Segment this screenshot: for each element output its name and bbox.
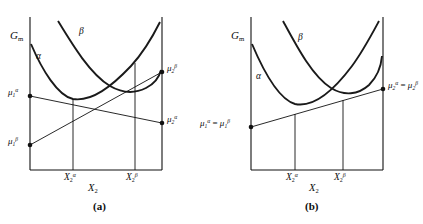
panel-b-beta-curve-label: β <box>298 32 303 42</box>
panel-b-caption: (b) <box>305 200 318 212</box>
panel-a-tick-x2-alpha: X2α <box>64 172 76 183</box>
panel-a-x-axis-label: X2 <box>88 182 98 194</box>
panel-b-graphics <box>249 17 386 170</box>
panel-b-mu2-equality-label: μ2α = μ2β <box>388 80 418 91</box>
panel-a-mu2-alpha-label: μ2α <box>167 114 177 125</box>
panel-a-caption: (a) <box>93 200 106 212</box>
panel-a-tangent-beta <box>30 72 162 145</box>
panel-b-mu1-equality-label: μ1α = μ1β <box>200 118 230 129</box>
panel-b-tick-x2-beta: X2β <box>334 172 346 183</box>
figure-container: Gm α β μ1α μ1β μ2β μ2α X2α X2β X2 (a) Gm… <box>0 0 423 224</box>
panel-b-alpha-curve-label: α <box>256 71 261 81</box>
panel-a-mu2-beta-point <box>160 70 165 75</box>
panel-a-y-axis-label: Gm <box>10 29 23 42</box>
panel-b-x-axis-label: X2 <box>309 182 319 194</box>
panel-a-tick-x2-beta: X2β <box>126 172 138 183</box>
panel-a-beta-curve-label: β <box>79 26 84 36</box>
panel-a-mu1-beta-point <box>28 143 33 148</box>
panel-a-mu2-alpha-point <box>160 121 165 126</box>
panel-b-mu1-point <box>249 125 254 130</box>
diagram-svg <box>0 0 423 224</box>
panel-a-tangent-alpha <box>30 96 162 123</box>
panel-a-alpha-curve-label: α <box>36 51 41 61</box>
panel-a-mu1-alpha-label: μ1α <box>8 87 18 98</box>
panel-a-mu2-beta-label: μ2β <box>167 63 177 74</box>
panel-b-tick-x2-alpha: X2α <box>286 172 298 183</box>
panel-b-y-axis-label: Gm <box>231 29 244 42</box>
panel-a-alpha-curve <box>31 22 160 99</box>
panel-b-alpha-curve <box>252 21 379 105</box>
panel-a-graphics <box>28 17 165 170</box>
panel-a-mu1-alpha-point <box>28 94 33 99</box>
panel-b-mu2-point <box>381 87 386 92</box>
panel-a-mu1-beta-label: μ1β <box>8 136 18 147</box>
panel-b-common-tangent <box>251 89 383 127</box>
